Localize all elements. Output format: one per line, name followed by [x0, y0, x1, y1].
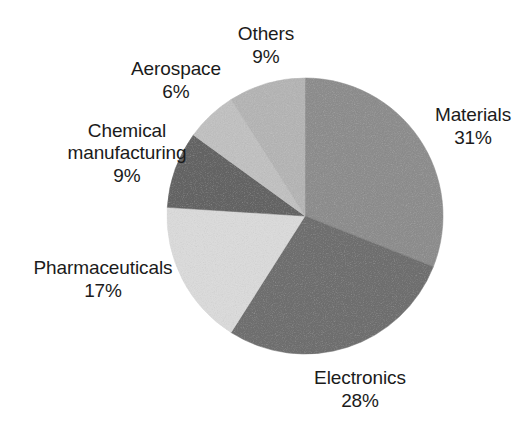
slice-label-chemical-value: 9% — [32, 164, 222, 187]
slice-label-electronics-name: Electronics — [282, 366, 438, 389]
slice-label-aerospace-name: Aerospace — [108, 57, 244, 80]
slice-label-chemical-manufacturing: Chemical manufacturing 9% — [32, 120, 222, 187]
slice-label-electronics: Electronics 28% — [282, 366, 438, 412]
slice-label-materials-name: Materials — [414, 103, 531, 126]
slice-label-electronics-value: 28% — [282, 389, 438, 412]
slice-label-others-name: Others — [206, 22, 326, 45]
slice-label-aerospace-value: 6% — [108, 80, 244, 103]
slice-label-materials: Materials 31% — [414, 103, 531, 149]
slice-label-aerospace: Aerospace 6% — [108, 57, 244, 103]
slice-label-chemical-name-line2: manufacturing — [32, 142, 222, 164]
slice-label-chemical-name-line1: Chemical — [32, 120, 222, 142]
slice-label-pharmaceuticals: Pharmaceuticals 17% — [10, 256, 196, 302]
slice-label-pharmaceuticals-value: 17% — [10, 279, 196, 302]
slice-label-pharmaceuticals-name: Pharmaceuticals — [10, 256, 196, 279]
pie-chart-page: Others 9% Aerospace 6% Chemical manufact… — [0, 0, 531, 428]
slice-label-materials-value: 31% — [414, 126, 531, 149]
pie-chart-figure: Others 9% Aerospace 6% Chemical manufact… — [0, 0, 531, 428]
